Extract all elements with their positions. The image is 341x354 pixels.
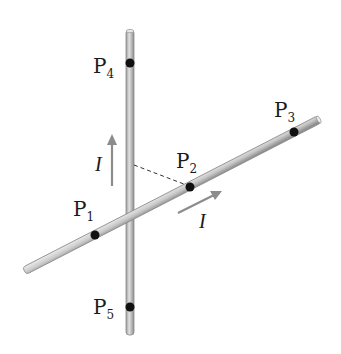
current-label-vertical: I <box>94 153 103 175</box>
current-label-diagonal: I <box>198 210 207 232</box>
point-p1-dot <box>91 231 100 240</box>
point-p2-dot <box>186 183 195 192</box>
label-p4: P4 <box>93 54 114 81</box>
label-p5: P5 <box>93 295 114 322</box>
point-p4-dot <box>126 59 135 68</box>
label-p1: P1 <box>73 197 94 224</box>
vertical-rod <box>126 30 134 336</box>
diagonal-rod <box>23 115 322 274</box>
label-p3: P3 <box>274 98 295 125</box>
point-p5-dot <box>126 303 135 312</box>
label-p2: P2 <box>176 149 197 176</box>
current-arrow-vertical-icon <box>107 134 117 186</box>
point-p3-dot <box>290 128 299 137</box>
wire-diagram: P1 P2 P3 P4 P5 I I <box>0 0 341 354</box>
